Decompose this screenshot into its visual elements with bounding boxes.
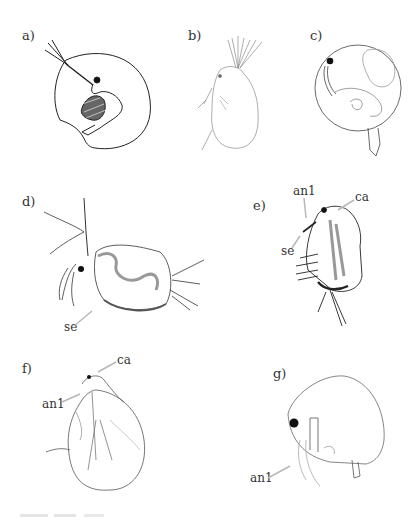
illustration-e bbox=[296, 206, 362, 326]
illustration-f bbox=[46, 375, 145, 490]
figure-drawings bbox=[0, 0, 420, 521]
arrow-ca-f bbox=[98, 362, 116, 372]
illustration-b bbox=[198, 36, 262, 150]
arrow-an1-f bbox=[62, 394, 80, 402]
arrow-an1-e bbox=[304, 198, 306, 218]
arrow-an1-g bbox=[268, 466, 290, 478]
arrow-se-d bbox=[74, 311, 92, 326]
arrow-se-e bbox=[292, 236, 300, 248]
illustration-a bbox=[45, 40, 150, 149]
caption-fragment bbox=[20, 514, 160, 517]
illustration-d bbox=[44, 198, 204, 310]
illustration-c bbox=[315, 45, 401, 156]
illustration-g bbox=[288, 376, 384, 486]
